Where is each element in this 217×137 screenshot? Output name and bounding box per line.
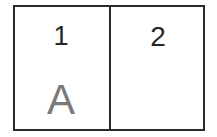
cell-left-sublabel: A — [13, 79, 109, 121]
cell-right[interactable]: 2 — [111, 5, 205, 131]
diagram-canvas: 1 A 2 — [0, 0, 217, 137]
cell-left-label: 1 — [13, 23, 109, 50]
cell-left[interactable]: 1 A — [13, 5, 109, 131]
cell-right-label: 2 — [111, 23, 205, 51]
